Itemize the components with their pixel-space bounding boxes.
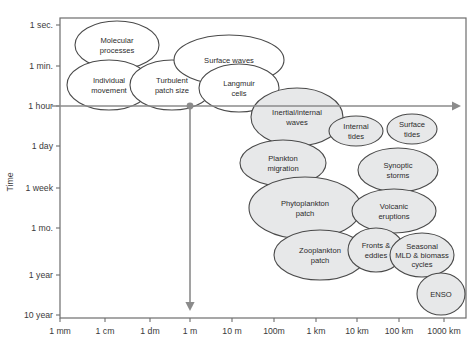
y-tick-label-4: 1 week <box>25 183 53 193</box>
figure-canvas: MolecularprocessesIndividualmovementTurb… <box>0 0 476 349</box>
bubble-layer: MolecularprocessesIndividualmovementTurb… <box>67 21 465 315</box>
bubble-synoptic-storms: Synopticstorms <box>358 148 438 192</box>
x-tick-label-7: 10 km <box>345 326 369 336</box>
x-tick-label-2: 1 dm <box>140 326 159 336</box>
bubble-inertial-internal-waves: Inertial/internalwaves <box>251 88 343 146</box>
bubble-internal-tides: Internaltides <box>329 116 383 146</box>
y-tick-label-1: 1 min. <box>29 61 53 71</box>
bubble-label: Molecularprocesses <box>100 36 135 54</box>
bubble-surface-tides: Surfacetides <box>387 114 437 144</box>
y-tick-label-0: 1 sec. <box>30 20 53 30</box>
x-tick-label-5: 100m <box>263 326 285 336</box>
x-tick-label-9: 1000 km <box>427 326 460 336</box>
horizontal-scale-arrow-head <box>452 101 461 110</box>
x-tick-label-4: 10 m <box>222 326 241 336</box>
bubble-label: Turbulentpatch size <box>155 76 189 94</box>
y-axis-title: Time <box>5 172 15 191</box>
bubble-label: Planktonmigration <box>267 154 298 172</box>
y-tick-label-3: 1 day <box>32 141 54 151</box>
scale-origin-dot <box>187 103 194 110</box>
scales-scatter-diagram: MolecularprocessesIndividualmovementTurb… <box>0 0 476 349</box>
x-tick-label-0: 1 mm <box>49 326 71 336</box>
vertical-scale-arrow-head <box>185 302 194 311</box>
y-tick-label-5: 1 mo. <box>31 223 53 233</box>
y-tick-label-6: 1 year <box>29 270 53 280</box>
bubble-label: Fronts &eddies <box>362 241 391 259</box>
x-tick-label-6: 1 km <box>307 326 326 336</box>
x-tick-label-1: 1 cm <box>96 326 115 336</box>
x-tick-label-3: 1 m <box>183 326 197 336</box>
bubble-label: ENSO <box>430 290 452 299</box>
bubble-label: Surface waves <box>204 56 254 65</box>
bubble-seasonal-mld-biomass-cycles: SeasonalMLD & biomasscycles <box>390 233 454 277</box>
bubble-label: Individualmovement <box>91 76 127 94</box>
bubble-label: Synopticstorms <box>383 161 412 179</box>
bubble-enso: ENSO <box>417 273 465 315</box>
y-tick-label-2: 1 hour <box>28 101 53 111</box>
bubble-phytoplankton-patch: Phytoplanktonpatch <box>249 177 361 239</box>
axis-titles: Time <box>5 172 15 191</box>
bubble-label: Volcaniceruptions <box>378 202 409 220</box>
y-tick-label-7: 10 year <box>24 310 53 320</box>
x-tick-label-8: 100 km <box>385 326 414 336</box>
bubble-volcanic-eruptions: Volcaniceruptions <box>352 189 436 233</box>
